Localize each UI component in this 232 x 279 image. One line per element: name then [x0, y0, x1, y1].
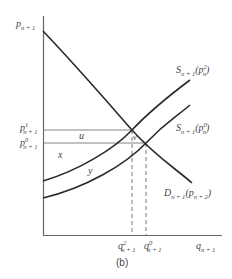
- figure-caption: (b): [116, 258, 128, 268]
- price-label-p0: p0n + 1: [20, 137, 37, 151]
- region-v-label: v: [133, 134, 137, 142]
- region-y-label: y: [88, 166, 92, 176]
- supply-upper-label: Sn + 1(p2n): [176, 64, 209, 78]
- region-x-label: x: [58, 150, 62, 160]
- supply-curve-lower: [43, 105, 190, 198]
- quantity-label-q2: q2n + 1: [118, 240, 135, 254]
- supply-lower-label: Sn + 1(p0n): [176, 122, 209, 136]
- region-u-label: u: [79, 131, 84, 141]
- quantity-label-q0: q0n + 1: [144, 240, 161, 254]
- y-axis-label: pn + 1: [16, 19, 35, 32]
- demand-curve: [43, 31, 192, 183]
- x-axis-label: qn + 1: [196, 241, 215, 254]
- price-label-p1: p1n + 1: [20, 122, 37, 136]
- demand-label: Dn + 1(pn + 2): [164, 188, 211, 201]
